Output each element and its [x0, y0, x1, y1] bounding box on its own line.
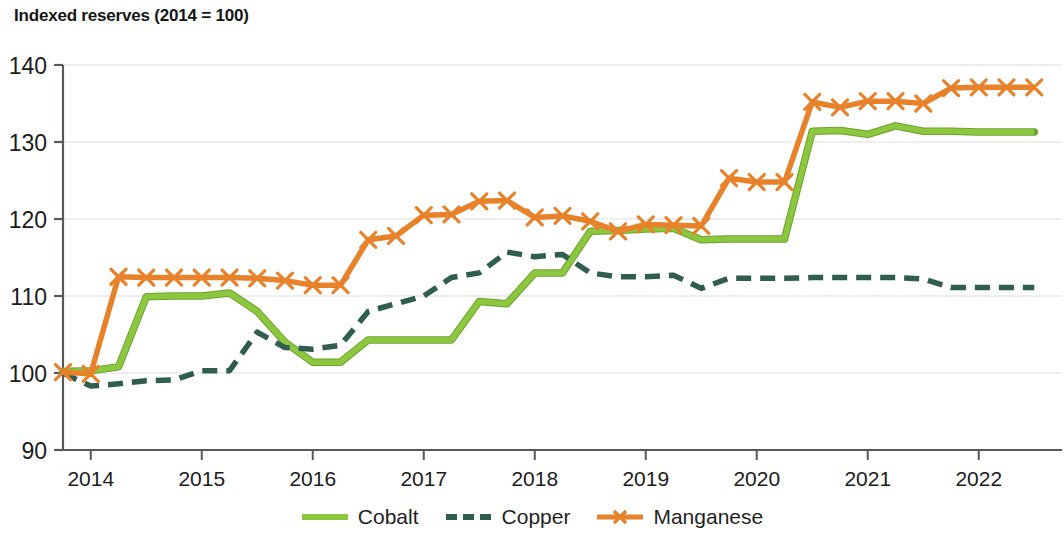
y-axis-tick-label: 140	[9, 53, 47, 79]
x-axis-tick-label: 2022	[955, 467, 1002, 490]
series-line-outline	[63, 126, 1034, 372]
chart-svg: 90100110120130140 2014201520162017201820…	[0, 0, 1064, 533]
y-axis-tick-labels: 90100110120130140	[9, 53, 47, 464]
legend-label-copper: Copper	[502, 505, 571, 529]
gridlines	[63, 65, 1062, 373]
legend-item-manganese[interactable]: Manganese	[596, 505, 763, 529]
legend-swatch-copper	[445, 508, 493, 526]
y-axis-tick-label: 90	[21, 438, 47, 464]
chart-figure: Indexed reserves (2014 = 100) 9010011012…	[0, 0, 1064, 533]
y-axis-tick-label: 120	[9, 207, 47, 233]
x-axis-tick-label: 2015	[178, 467, 225, 490]
x-axis-ticks	[91, 450, 979, 460]
chart-legend: Cobalt Copper Manganese	[0, 505, 1064, 529]
y-axis-tick-label: 100	[9, 361, 47, 387]
legend-item-copper[interactable]: Copper	[445, 505, 571, 529]
legend-swatch-manganese	[596, 508, 644, 526]
y-axis-tick-label: 110	[10, 284, 47, 310]
x-axis-tick-label: 2014	[67, 467, 114, 490]
legend-item-cobalt[interactable]: Cobalt	[301, 505, 419, 529]
y-axis-tick-label: 130	[9, 130, 47, 156]
x-axis-tick-labels: 201420152016201720182019202020212022	[67, 467, 1002, 490]
legend-swatch-cobalt	[301, 508, 349, 526]
x-axis-tick-label: 2021	[844, 467, 891, 490]
x-axis-tick-label: 2018	[511, 467, 558, 490]
data-series-layer	[56, 80, 1042, 386]
y-axis-ticks	[54, 65, 63, 450]
x-axis-tick-label: 2019	[622, 467, 669, 490]
legend-label-manganese: Manganese	[653, 505, 763, 529]
x-axis-tick-label: 2016	[289, 467, 336, 490]
x-axis-tick-label: 2017	[400, 467, 447, 490]
series-cobalt	[63, 126, 1034, 372]
series-line	[63, 126, 1034, 372]
x-axis-tick-label: 2020	[733, 467, 780, 490]
legend-label-cobalt: Cobalt	[358, 505, 419, 529]
plot-area: 90100110120130140 2014201520162017201820…	[0, 0, 1064, 533]
